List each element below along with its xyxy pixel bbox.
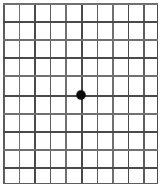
grid-line-vertical-8: [128, 3, 130, 184]
grid-line-vertical-0: [3, 3, 5, 184]
grid-line-horizontal-3: [3, 57, 158, 59]
grid-line-horizontal-2: [3, 39, 158, 41]
grid-line-horizontal-10: [3, 183, 158, 185]
grid-line-vertical-3: [50, 3, 52, 184]
grid-line-vertical-1: [19, 3, 21, 184]
grid-line-vertical-9: [143, 3, 145, 184]
grid-line-vertical-4: [65, 3, 67, 184]
grid-line-horizontal-7: [3, 131, 158, 133]
grid-line-horizontal-6: [3, 113, 158, 115]
grid-line-horizontal-8: [3, 149, 158, 151]
grid-plate: [3, 3, 158, 184]
amsler-grid-chart: [0, 0, 163, 188]
grid-line-horizontal-1: [3, 21, 158, 23]
grid-line-vertical-7: [112, 3, 114, 184]
grid-line-vertical-10: [157, 3, 159, 184]
grid-line-horizontal-4: [3, 75, 158, 77]
grid-line-horizontal-9: [3, 167, 158, 169]
center-fixation-dot: [77, 91, 86, 100]
grid-line-vertical-6: [97, 3, 99, 184]
grid-line-horizontal-0: [3, 3, 158, 5]
grid-line-vertical-2: [34, 3, 36, 184]
